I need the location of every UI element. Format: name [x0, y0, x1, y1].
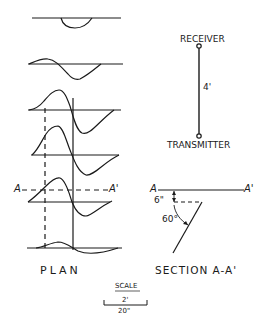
section-dip-line — [173, 202, 202, 253]
plan-marker-right: A' — [109, 183, 119, 194]
plan-trace-5 — [28, 178, 112, 216]
scale-horizontal-label: 2' — [122, 296, 128, 304]
transmitter-icon — [197, 134, 201, 138]
receiver-label: RECEIVER — [180, 34, 225, 44]
plan-marker-left: A — [14, 183, 21, 194]
scale-title: SCALE — [115, 282, 137, 290]
transmitter-label: TRANSMITTER — [167, 140, 230, 150]
scale-vertical-label: 20" — [118, 307, 130, 315]
plan-trace-4 — [31, 126, 119, 175]
depth-label: 6" — [154, 195, 164, 205]
angle-label: 60° — [162, 214, 178, 224]
plan-trace-1 — [32, 18, 121, 28]
section-marker-right: A' — [244, 183, 254, 194]
plan-trace-6 — [27, 242, 122, 253]
section-title: SECTION A-A' — [155, 264, 237, 276]
section-marker-left: A — [150, 183, 157, 194]
receiver-icon — [197, 44, 201, 48]
plan-trace-2 — [28, 59, 123, 80]
separation-label: 4' — [203, 82, 211, 92]
plan-trace-3 — [28, 90, 121, 133]
plan-title: PLAN — [40, 264, 81, 277]
arrow-head-up-icon — [172, 191, 176, 195]
